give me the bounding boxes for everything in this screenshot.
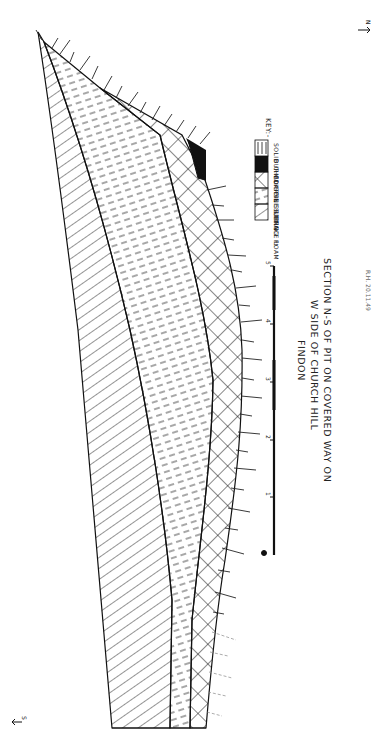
scale-unit: Ft.: [273, 240, 280, 248]
scale-tick-5: 5: [265, 261, 272, 265]
north-arrow-icon: [358, 27, 370, 33]
key-swatches: [255, 140, 268, 220]
key-label-solid-chalk: SOLID CHALK: [273, 143, 280, 189]
signature: R.H. 20.11.49: [365, 270, 372, 311]
key-heading: KEY:-: [264, 118, 272, 138]
scale-tick-2: 2: [265, 435, 272, 439]
title-line-1: SECTION N-S OF PIT ON COVERED WAY ON: [322, 258, 333, 482]
title-line-2: W SIDE OF CHURCH HILL: [309, 300, 320, 430]
title-line-3: FINDON: [296, 340, 307, 381]
scale-bar: [262, 266, 275, 556]
scale-tick-3: 3: [265, 377, 272, 381]
south-label: S: [21, 716, 28, 720]
north-label: N: [365, 20, 372, 25]
scale-tick-4: 4: [265, 319, 272, 323]
scale-tick-1: 1: [265, 492, 272, 496]
